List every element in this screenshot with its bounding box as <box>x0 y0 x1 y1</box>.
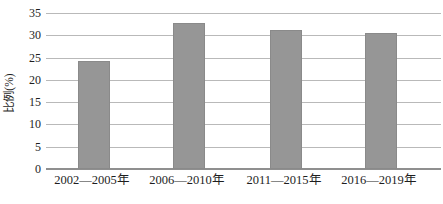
bar <box>270 30 302 169</box>
y-tick-label: 20 <box>0 73 41 87</box>
y-tick-label: 10 <box>0 117 41 131</box>
bar <box>173 23 205 169</box>
y-tick-label: 5 <box>0 140 41 154</box>
plot-area: 051015202530352002—2005年2006—2010年2011—2… <box>0 0 443 204</box>
y-tick-label: 25 <box>0 51 41 65</box>
y-gridline <box>46 13 441 14</box>
y-tick-label: 30 <box>0 28 41 42</box>
bar <box>365 33 397 169</box>
y-tick-label: 15 <box>0 95 41 109</box>
y-tick-label: 35 <box>0 6 41 20</box>
bar <box>78 61 110 169</box>
bar-chart-figure: 比例(%) 051015202530352002—2005年2006—2010年… <box>0 0 443 204</box>
x-axis-label: 2016—2019年 <box>319 173 439 188</box>
